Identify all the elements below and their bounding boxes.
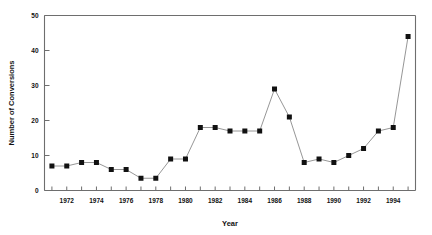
y-tick-label: 30 [31,82,39,89]
x-tick-label: 1992 [356,197,371,204]
x-tick-label: 1974 [89,197,104,204]
data-point-marker [346,153,351,158]
x-tick-label: 1986 [267,197,282,204]
x-axis-title: Year [222,219,238,228]
data-point-marker [406,34,411,39]
data-point-marker [109,167,114,172]
data-point-marker [124,167,129,172]
data-point-marker [317,157,322,162]
y-tick-label: 0 [35,187,39,194]
data-point-marker [79,160,84,165]
data-point-marker [242,129,247,134]
data-point-marker [138,176,143,181]
y-tick-label: 20 [31,117,39,124]
data-point-marker [361,146,366,151]
x-tick-label: 1976 [119,197,134,204]
x-tick-label: 1982 [208,197,223,204]
data-point-marker [94,160,99,165]
data-series [49,34,410,181]
x-tick-label: 1994 [386,197,401,204]
x-axis: 1972197419761978198019821984198619881990… [52,187,408,204]
x-tick-label: 1978 [149,197,164,204]
data-point-marker [64,164,69,169]
y-axis: 01020304050 [31,12,49,194]
data-point-marker [376,129,381,134]
data-point-marker [228,129,233,134]
x-tick-label: 1984 [238,197,253,204]
data-point-marker [287,115,292,120]
x-tick-label: 1988 [297,197,312,204]
data-point-marker [272,87,277,92]
y-tick-label: 10 [31,152,39,159]
data-point-marker [183,157,188,162]
x-tick-label: 1972 [60,197,75,204]
data-point-marker [302,160,307,165]
data-point-marker [213,125,218,130]
data-point-marker [49,164,54,169]
line-chart: 01020304050 1972197419761978198019821984… [0,0,432,235]
data-point-marker [391,125,396,130]
data-point-marker [168,157,173,162]
series-line [52,37,408,179]
data-point-marker [331,160,336,165]
x-tick-label: 1990 [327,197,342,204]
y-tick-label: 50 [31,12,39,19]
data-point-marker [153,176,158,181]
x-tick-label: 1980 [178,197,193,204]
y-axis-title: Number of Conversions [7,60,16,145]
data-point-marker [198,125,203,130]
chart-container: 01020304050 1972197419761978198019821984… [0,0,432,235]
y-tick-label: 40 [31,47,39,54]
data-point-marker [257,129,262,134]
